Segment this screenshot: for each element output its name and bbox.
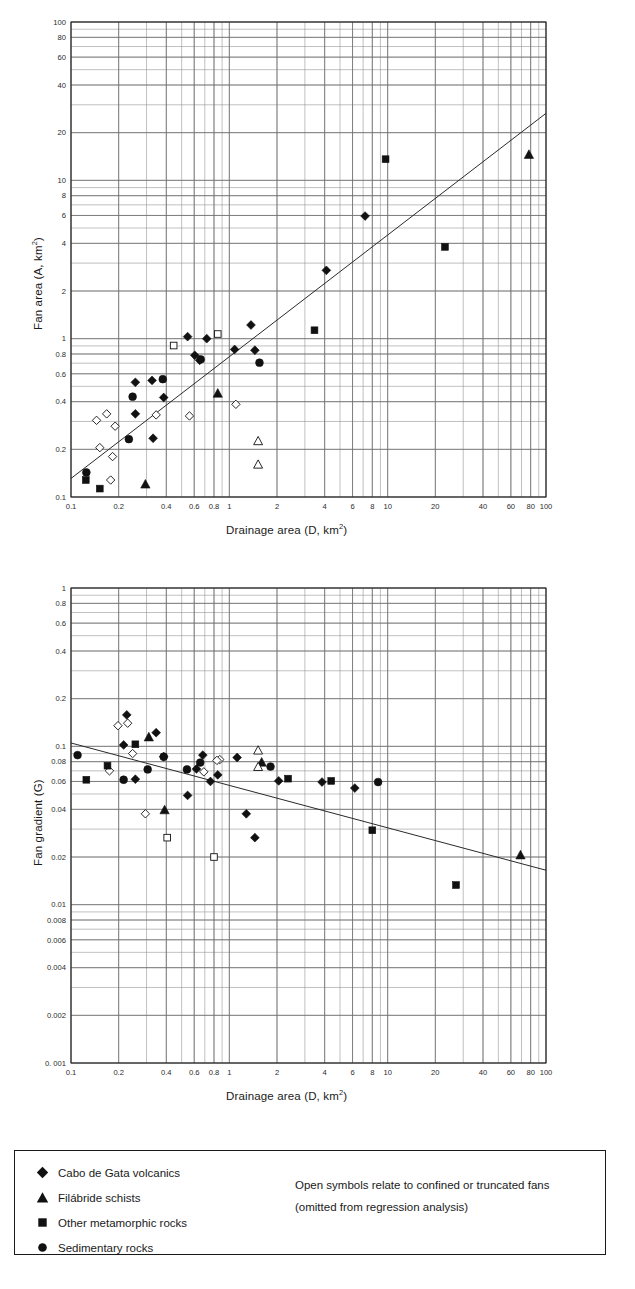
panel-a-y-axis-title-sup: 2 xyxy=(30,241,39,245)
svg-text:0.04: 0.04 xyxy=(51,805,66,814)
svg-text:60: 60 xyxy=(58,53,66,62)
svg-text:4: 4 xyxy=(323,502,327,511)
filled-diamond-icon xyxy=(33,1164,51,1182)
data-point-diamond-filled xyxy=(350,784,359,793)
data-point-diamond-open xyxy=(96,443,104,451)
svg-text:0.6: 0.6 xyxy=(189,502,200,511)
data-point-circle-filled xyxy=(197,355,205,363)
data-point-square-filled xyxy=(83,776,90,783)
svg-text:0.4: 0.4 xyxy=(55,647,66,656)
data-point-diamond-filled xyxy=(213,771,222,780)
svg-text:40: 40 xyxy=(479,1068,487,1077)
data-point-circle-filled xyxy=(74,751,82,759)
svg-text:0.6: 0.6 xyxy=(55,370,66,379)
data-point-diamond-open xyxy=(123,719,131,727)
data-point-diamond-open xyxy=(185,412,193,420)
data-point-square-filled xyxy=(132,741,139,748)
svg-text:0.1: 0.1 xyxy=(66,502,77,511)
svg-text:1: 1 xyxy=(62,334,66,343)
data-point-circle-filled xyxy=(159,375,167,383)
svg-text:4: 4 xyxy=(323,1068,327,1077)
filled-circle-icon xyxy=(33,1239,51,1257)
data-point-square-filled xyxy=(453,882,460,889)
svg-text:0.2: 0.2 xyxy=(113,502,124,511)
data-point-diamond-filled xyxy=(183,791,192,800)
data-point-circle-filled xyxy=(125,435,133,443)
data-point-diamond-open xyxy=(111,422,119,430)
data-point-circle-filled xyxy=(183,766,191,774)
legend-item-filabride-schists: Filábride schists xyxy=(33,1185,187,1210)
data-point-diamond-filled xyxy=(230,345,239,354)
svg-text:0. 001: 0. 001 xyxy=(45,1059,66,1068)
filled-square-icon xyxy=(33,1214,51,1232)
data-point-square-filled xyxy=(285,775,292,782)
svg-text:40: 40 xyxy=(479,502,487,511)
panel-a-x-axis-title-text: Drainage area (D, km xyxy=(226,524,339,536)
svg-text:0.1: 0.1 xyxy=(66,1068,77,1077)
legend-note-line-1: Open symbols relate to confined or trunc… xyxy=(295,1174,549,1196)
svg-text:0.8: 0.8 xyxy=(55,350,66,359)
svg-text:2: 2 xyxy=(275,502,279,511)
panel-b-y-axis-title-text: Fan gradient (G) xyxy=(32,779,44,866)
data-point-diamond-filled xyxy=(242,809,251,818)
svg-text:0.006: 0.006 xyxy=(47,936,66,945)
data-point-triangle-filled xyxy=(144,732,153,741)
svg-text:20: 20 xyxy=(431,1068,439,1077)
panel-fan-area: 0.10.20.40.60.81246810204060801000.10.20… xyxy=(0,0,635,555)
svg-text:20: 20 xyxy=(431,502,439,511)
data-point-diamond-filled xyxy=(361,212,370,221)
panel-a-x-axis-title: Drainage area (D, km2) xyxy=(226,524,347,536)
data-point-diamond-open xyxy=(128,749,136,757)
legend-label-filabride-schists: Filábride schists xyxy=(58,1192,140,1204)
legend-items: Cabo de Gata volcanics Filábride schists… xyxy=(33,1160,187,1260)
data-point-triangle-open xyxy=(254,746,263,754)
svg-text:0.002: 0.002 xyxy=(47,1011,66,1020)
data-point-diamond-open xyxy=(114,721,122,729)
panel-fan-gradient: 0.10.20.40.60.81246810204060801000. 0010… xyxy=(0,566,635,1121)
svg-text:0.8: 0.8 xyxy=(209,502,220,511)
svg-text:80: 80 xyxy=(526,1068,534,1077)
svg-text:0.6: 0.6 xyxy=(189,1068,200,1077)
svg-text:0.1: 0.1 xyxy=(55,742,66,751)
data-point-diamond-filled xyxy=(159,393,168,402)
panel-a-y-axis-title-tail: ) xyxy=(32,237,44,241)
panel-b-x-axis-title-text: Drainage area (D, km xyxy=(226,1090,339,1102)
data-point-diamond-filled xyxy=(131,775,140,784)
data-point-diamond-filled xyxy=(149,434,158,443)
legend-label-other-metamorphic-rocks: Other metamorphic rocks xyxy=(58,1217,187,1229)
data-point-triangle-filled xyxy=(213,389,222,398)
data-point-square-filled xyxy=(382,156,389,163)
svg-text:0.01: 0.01 xyxy=(51,900,66,909)
figure-root: 0.10.20.40.60.81246810204060801000.10.20… xyxy=(0,0,635,1289)
data-point-square-filled xyxy=(328,777,335,784)
svg-text:10: 10 xyxy=(58,176,66,185)
svg-text:1: 1 xyxy=(227,1068,231,1077)
svg-text:6: 6 xyxy=(350,502,354,511)
svg-text:6: 6 xyxy=(62,211,66,220)
svg-text:0.1: 0.1 xyxy=(55,493,66,502)
data-point-circle-filled xyxy=(82,469,90,477)
legend-item-sedimentary-rocks: Sedimentary rocks xyxy=(33,1235,187,1260)
svg-text:10: 10 xyxy=(383,1068,391,1077)
svg-text:0.2: 0.2 xyxy=(55,694,66,703)
legend-label-cabo-de-gata-volcanics: Cabo de Gata volcanics xyxy=(58,1167,180,1179)
svg-text:0.02: 0.02 xyxy=(51,853,66,862)
svg-text:1: 1 xyxy=(227,502,231,511)
data-point-square-filled xyxy=(311,327,318,334)
data-point-diamond-filled xyxy=(202,334,211,343)
data-point-triangle-open xyxy=(254,436,263,444)
data-point-triangle-filled xyxy=(141,479,150,488)
panel-b-plot: 0.10.20.40.60.81246810204060801000. 0010… xyxy=(0,566,635,1121)
legend: Cabo de Gata volcanics Filábride schists… xyxy=(14,1150,606,1255)
data-point-square-open xyxy=(170,342,177,349)
legend-item-other-metamorphic-rocks: Other metamorphic rocks xyxy=(33,1210,187,1235)
data-point-square-filled xyxy=(442,243,449,250)
panel-a-plot: 0.10.20.40.60.81246810204060801000.10.20… xyxy=(0,0,635,555)
filled-triangle-icon xyxy=(33,1189,51,1207)
svg-text:100: 100 xyxy=(540,1068,553,1077)
svg-text:10: 10 xyxy=(383,502,391,511)
data-point-square-filled xyxy=(369,827,376,834)
svg-text:60: 60 xyxy=(507,502,515,511)
data-point-diamond-filled xyxy=(152,728,161,737)
data-point-circle-filled xyxy=(144,766,152,774)
